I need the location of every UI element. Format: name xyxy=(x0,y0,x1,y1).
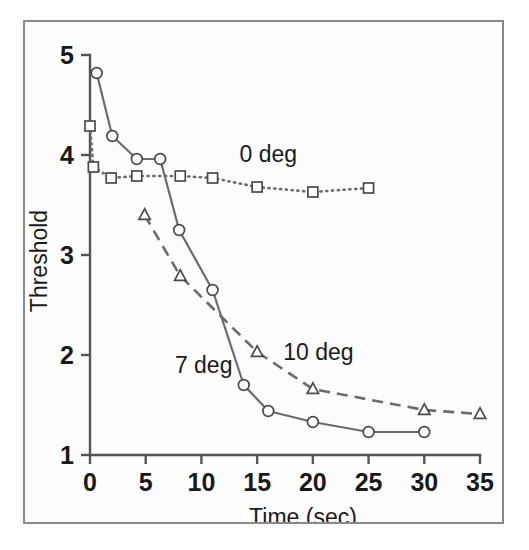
square-marker xyxy=(106,173,116,183)
chart-screenshot: 1234505101520253035 Time (sec)Threshold0… xyxy=(0,0,529,550)
x-tick-label: 20 xyxy=(299,468,327,496)
circle-marker xyxy=(419,427,430,438)
y-tick-label: 5 xyxy=(60,41,74,69)
circle-marker xyxy=(155,154,166,165)
x-tick-label: 10 xyxy=(188,468,216,496)
x-tick-label: 25 xyxy=(355,468,383,496)
axis-lines xyxy=(90,55,480,455)
y-tick-label: 2 xyxy=(60,341,74,369)
square-marker xyxy=(208,173,218,183)
series-label-0-deg: 0 deg xyxy=(240,141,298,167)
x-axis-title: Time (sec) xyxy=(249,504,357,522)
label-group: Time (sec)Threshold0 deg7 deg10 deg xyxy=(26,141,357,522)
circle-marker xyxy=(207,285,218,296)
series-10-deg xyxy=(139,209,486,419)
axis-group: 1234505101520253035 xyxy=(60,41,494,496)
circle-marker xyxy=(174,225,185,236)
y-tick-label: 3 xyxy=(60,241,74,269)
square-marker xyxy=(364,183,374,193)
square-marker xyxy=(88,162,98,172)
circle-marker xyxy=(131,154,142,165)
series-0-deg xyxy=(85,121,374,197)
square-marker xyxy=(132,171,142,181)
x-tick-label: 30 xyxy=(410,468,438,496)
triangle-marker xyxy=(307,383,318,394)
circle-marker xyxy=(307,417,318,428)
y-tick-label: 4 xyxy=(60,141,74,169)
x-tick-label: 5 xyxy=(139,468,153,496)
triangle-marker xyxy=(139,209,150,220)
series-7-deg xyxy=(91,68,429,438)
square-marker xyxy=(85,121,95,131)
y-tick-label: 1 xyxy=(60,441,74,469)
x-tick-label: 0 xyxy=(83,468,97,496)
series-label-7-deg: 7 deg xyxy=(175,352,233,378)
circle-marker xyxy=(107,131,118,142)
circle-marker xyxy=(363,427,374,438)
x-tick-label: 35 xyxy=(466,468,494,496)
series-line xyxy=(97,73,425,432)
square-marker xyxy=(175,171,185,181)
figure-frame: 1234505101520253035 Time (sec)Threshold0… xyxy=(23,20,504,524)
triangle-marker xyxy=(474,408,485,419)
square-marker xyxy=(252,182,262,192)
x-tick-label: 15 xyxy=(243,468,271,496)
line-chart-plot: 1234505101520253035 Time (sec)Threshold0… xyxy=(25,22,502,522)
square-marker xyxy=(308,187,318,197)
circle-marker xyxy=(263,406,274,417)
series-label-10-deg: 10 deg xyxy=(283,339,353,365)
circle-marker xyxy=(238,380,249,391)
series-group xyxy=(85,68,486,438)
y-axis-title: Threshold xyxy=(26,210,52,312)
circle-marker xyxy=(91,68,102,79)
